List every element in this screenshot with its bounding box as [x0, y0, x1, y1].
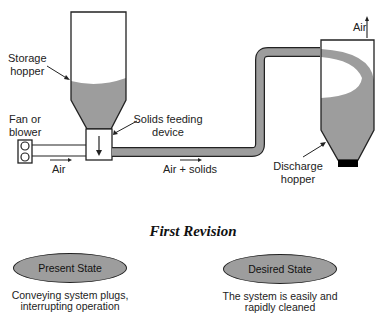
- fan-blower: [18, 140, 32, 163]
- present-state-description: Conveying system plugs, interrupting ope…: [0, 290, 150, 312]
- label-line: hopper: [8, 65, 47, 78]
- label-line: Discharge: [266, 160, 330, 173]
- discharge-base: [338, 160, 358, 167]
- air-label: Air: [52, 163, 65, 176]
- fan-label: Fan or blower: [9, 113, 41, 139]
- storage-hopper-label: Storage hopper: [8, 52, 47, 78]
- label-line: device: [129, 126, 207, 139]
- label-line: Solids feeding: [129, 113, 207, 126]
- conveying-pipe: [112, 52, 320, 162]
- desired-state-oval: Desired State: [223, 254, 337, 284]
- discharge-hopper: [321, 16, 374, 167]
- label-line: Storage: [8, 52, 47, 65]
- present-state-oval: Present State: [13, 253, 127, 283]
- label-line: Fan or: [9, 113, 41, 126]
- air-out-label: Air: [353, 21, 366, 34]
- air-pipe: [32, 145, 86, 162]
- revision-title: First Revision: [0, 223, 386, 240]
- label-line: hopper: [266, 173, 330, 186]
- discharge-hopper-label: Discharge hopper: [266, 160, 330, 186]
- feeder-label: Solids feeding device: [129, 113, 207, 139]
- desc-line: interrupting operation: [0, 301, 150, 312]
- label-line: blower: [9, 126, 41, 139]
- air-solids-label: Air + solids: [163, 163, 217, 176]
- storage-hopper: [71, 12, 126, 129]
- desired-state-description: The system is easily and rapidly cleaned: [200, 291, 360, 313]
- solids-feeding-device: [86, 129, 112, 160]
- desc-line: rapidly cleaned: [200, 302, 360, 313]
